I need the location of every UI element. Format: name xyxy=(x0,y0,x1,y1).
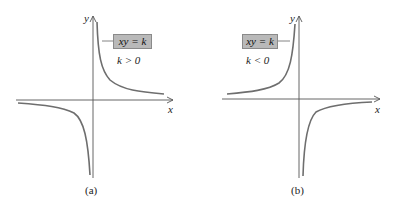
panel-b-condition: k < 0 xyxy=(246,55,269,66)
hyperbola-diagrams xyxy=(0,0,394,212)
panel-a-condition: k > 0 xyxy=(117,55,140,66)
panel-b-curve-q4 xyxy=(303,102,372,176)
panel-a-curve-q3 xyxy=(18,103,90,175)
panel-b-equation-box: xy = k xyxy=(242,34,278,49)
panel-a-x-label: x xyxy=(168,104,173,115)
panel-a-caption: (a) xyxy=(85,185,97,196)
panel-b-caption: (b) xyxy=(291,185,304,196)
panel-b-y-label: y xyxy=(290,13,295,24)
panel-a-equation-box: xy = k xyxy=(113,34,152,49)
panel-b-x-label: x xyxy=(375,104,380,115)
panel-a-y-label: y xyxy=(84,13,89,24)
